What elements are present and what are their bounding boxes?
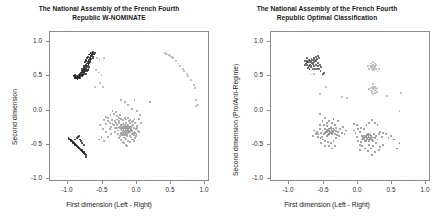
scatter-point [130, 128, 132, 130]
panel-title-line2: Republic W-NOMINATE [72, 14, 146, 21]
scatter-point [334, 145, 336, 147]
scatter-point [83, 73, 85, 75]
scatter-point [195, 99, 197, 101]
scatter-point [306, 60, 308, 62]
scatter-point [79, 77, 81, 79]
scatter-point [342, 126, 344, 128]
scatter-point [332, 128, 334, 130]
scatter-point [69, 139, 71, 141]
scatter-point [83, 70, 85, 72]
scatter-point [90, 55, 92, 57]
scatter-point [128, 126, 130, 128]
scatter-point [116, 119, 118, 121]
scatter-point [127, 140, 129, 142]
scatter-point [134, 122, 136, 124]
scatter-point [103, 119, 105, 121]
scatter-point [373, 87, 375, 89]
xtick-label: 0.5 [156, 186, 184, 193]
scatter-point [131, 130, 133, 132]
scatter-point [121, 130, 123, 132]
ytick-label: 0.0 [235, 106, 263, 113]
scatter-point [355, 132, 357, 134]
scatter-point [334, 124, 336, 126]
scatter-point [370, 65, 372, 67]
scatter-point [372, 66, 374, 68]
scatter-point [317, 65, 319, 67]
scatter-point [79, 74, 81, 76]
scatter-point [311, 62, 313, 64]
scatter-point [119, 128, 121, 130]
scatter-point [99, 59, 101, 61]
scatter-point [121, 124, 123, 126]
scatter-point [79, 139, 81, 141]
scatter-point [193, 84, 195, 86]
scatter-point [317, 62, 319, 64]
scatter-point [68, 137, 70, 139]
scatter-point [322, 74, 324, 76]
scatter-point [123, 133, 125, 135]
scatter-point [132, 132, 134, 134]
ytick-label: -0.5 [235, 140, 263, 147]
scatter-point [400, 92, 402, 94]
xtick-label: 0.0 [122, 186, 150, 193]
scatter-point [83, 72, 85, 74]
scatter-point [103, 57, 105, 59]
scatter-point [91, 52, 93, 54]
scatter-point [83, 68, 85, 70]
scatter-point [311, 65, 313, 67]
scatter-point [365, 135, 367, 137]
scatter-point [317, 136, 319, 138]
scatter-point [372, 86, 374, 88]
scatter-point [79, 75, 81, 77]
ytick-label: 1.0 [235, 37, 263, 44]
scatter-point [315, 60, 317, 62]
scatter-point [124, 124, 126, 126]
scatter-point [125, 133, 127, 135]
scatter-point [105, 131, 107, 133]
scatter-point [82, 71, 84, 73]
scatter-point [99, 124, 101, 126]
scatter-point [77, 146, 79, 148]
scatter-point [118, 126, 120, 128]
scatter-point [139, 114, 141, 116]
scatter-point [323, 133, 325, 135]
scatter-point [327, 141, 329, 143]
scatter-point [372, 69, 374, 71]
scatter-point [332, 131, 334, 133]
scatter-point [362, 137, 364, 139]
ytick-label: 0.5 [14, 71, 42, 78]
scatter-point [85, 73, 87, 75]
scatter-point [105, 123, 107, 125]
scatter-point [375, 68, 377, 70]
scatter-point [126, 145, 128, 147]
scatter-point [130, 127, 132, 129]
scatter-point [374, 90, 376, 92]
scatter-point [137, 130, 139, 132]
scatter-point [90, 56, 92, 58]
xtick-label: -0.5 [309, 186, 337, 193]
scatter-point [311, 74, 313, 76]
scatter-point [330, 142, 332, 144]
scatter-point [79, 148, 81, 150]
scatter-point [167, 54, 169, 56]
ytick-mark [46, 144, 49, 145]
scatter-point [80, 140, 82, 142]
scatter-point [73, 142, 75, 144]
scatter-point [123, 128, 125, 130]
scatter-point [103, 140, 105, 142]
panel-title-optimal-classification: The National Assembly of the French Four… [226, 4, 428, 23]
scatter-point [360, 127, 362, 129]
scatter-point [324, 140, 326, 142]
panel-title-line2: Republic Optimal Classification [277, 14, 377, 21]
scatter-point [322, 130, 324, 132]
scatter-point [165, 53, 167, 55]
scatter-point [94, 52, 96, 54]
scatter-point [346, 97, 348, 99]
scatter-point [94, 86, 96, 88]
scatter-point [140, 122, 142, 124]
scatter-point [309, 61, 311, 63]
scatter-point [123, 133, 125, 135]
scatter-point [327, 130, 329, 132]
scatter-point [85, 65, 87, 67]
scatter-point [315, 56, 317, 58]
